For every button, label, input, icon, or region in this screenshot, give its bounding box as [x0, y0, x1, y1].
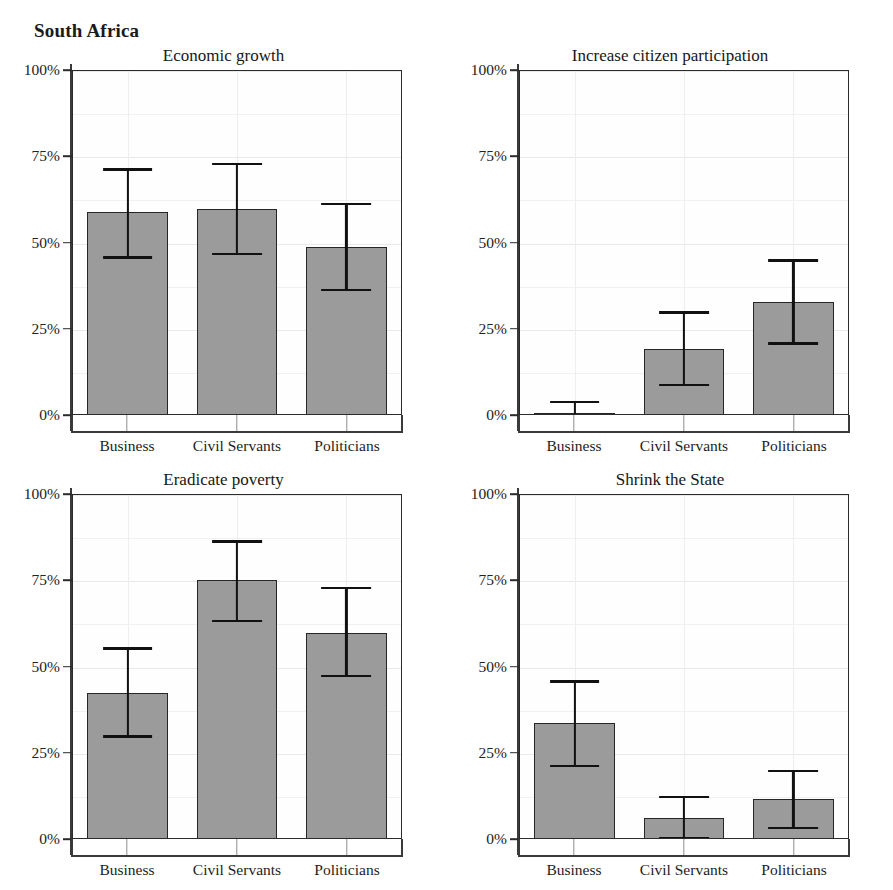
y-tick-label: 100% [24, 485, 60, 503]
error-cap-upper [321, 203, 371, 206]
panel-title: Eradicate poverty [0, 470, 447, 490]
page-title: South Africa [34, 20, 139, 42]
x-tick-label: Civil Servants [640, 437, 728, 455]
x-tick-label: Politicians [314, 437, 379, 455]
error-bar [127, 649, 129, 737]
y-tick-mark [510, 69, 519, 71]
y-tick-label: 100% [471, 61, 507, 79]
y-tick-mark [63, 579, 72, 581]
y-axis-line [517, 64, 519, 431]
error-cap-lower [550, 765, 600, 768]
error-cap-lower [659, 384, 709, 387]
plot-wrap: 0%25%50%75%100%BusinessCivil ServantsPol… [519, 70, 849, 415]
y-tick-mark [63, 752, 72, 754]
x-tick-mark [793, 839, 794, 855]
plot-area [72, 494, 402, 839]
y-tick-label: 0% [486, 406, 507, 424]
y-tick-mark [510, 579, 519, 581]
y-tick-label: 100% [471, 485, 507, 503]
plot-wrap: 0%25%50%75%100%BusinessCivil ServantsPol… [72, 70, 402, 415]
plot-area [72, 70, 402, 415]
y-tick-mark [63, 242, 72, 244]
y-axis-line [517, 488, 519, 855]
x-axis-line [71, 855, 403, 857]
y-tick-label: 0% [39, 830, 60, 848]
x-tick-mark [683, 415, 684, 431]
x-tick-label: Civil Servants [193, 437, 281, 455]
error-cap-lower [321, 675, 371, 678]
x-tick-mark [236, 415, 237, 431]
x-axis-stub-left [518, 839, 520, 855]
y-axis-line [70, 64, 72, 431]
error-cap-upper [768, 259, 818, 262]
x-axis-stub-right [401, 415, 403, 431]
y-tick-label: 75% [32, 147, 60, 165]
error-bar [683, 797, 685, 838]
y-tick-label: 50% [32, 658, 60, 676]
error-cap-lower [212, 620, 262, 623]
chart-panel: Eradicate poverty0%25%50%75%100%Business… [0, 466, 447, 890]
plot-area [519, 70, 849, 415]
error-bar [792, 261, 794, 344]
error-cap-lower [103, 256, 153, 259]
panel-title: Economic growth [0, 46, 447, 66]
x-tick-label: Civil Servants [193, 861, 281, 879]
x-axis-stub-right [848, 839, 850, 855]
x-axis-stub-left [71, 415, 73, 431]
y-tick-label: 25% [32, 320, 60, 338]
y-tick-label: 75% [479, 571, 507, 589]
y-tick-label: 25% [479, 320, 507, 338]
x-tick-mark [346, 839, 347, 855]
panel-title: Shrink the State [447, 470, 893, 490]
x-axis-line [71, 431, 403, 433]
chart-panel: Shrink the State0%25%50%75%100%BusinessC… [447, 466, 893, 890]
error-cap-lower [212, 253, 262, 256]
x-tick-label: Civil Servants [640, 861, 728, 879]
y-tick-label: 25% [479, 744, 507, 762]
y-tick-label: 75% [32, 571, 60, 589]
error-cap-upper [768, 770, 818, 773]
error-bar [574, 681, 576, 766]
error-cap-lower [768, 827, 818, 830]
x-tick-label: Business [99, 861, 154, 879]
error-cap-lower [768, 342, 818, 345]
error-cap-upper [103, 647, 153, 650]
chart-panel: Economic growth0%25%50%75%100%BusinessCi… [0, 42, 447, 466]
plot-wrap: 0%25%50%75%100%BusinessCivil ServantsPol… [519, 494, 849, 839]
panel-grid: Economic growth0%25%50%75%100%BusinessCi… [0, 42, 893, 890]
error-cap-upper [212, 163, 262, 166]
error-cap-upper [550, 401, 600, 404]
x-tick-label: Business [99, 437, 154, 455]
y-tick-mark [63, 666, 72, 668]
x-axis-stub-right [848, 415, 850, 431]
x-axis-stub-left [71, 839, 73, 855]
x-tick-mark [236, 839, 237, 855]
error-cap-upper [103, 168, 153, 171]
y-tick-mark [510, 752, 519, 754]
x-tick-mark [126, 839, 127, 855]
x-tick-mark [573, 415, 574, 431]
y-tick-label: 100% [24, 61, 60, 79]
x-axis-stub-left [518, 415, 520, 431]
y-tick-mark [510, 666, 519, 668]
y-tick-label: 50% [479, 658, 507, 676]
vertical-gridline [684, 495, 685, 838]
x-tick-label: Politicians [314, 861, 379, 879]
x-tick-label: Politicians [761, 861, 826, 879]
x-tick-mark [683, 839, 684, 855]
y-tick-label: 50% [479, 234, 507, 252]
error-bar [792, 771, 794, 828]
error-bar [127, 169, 129, 257]
y-axis-line [70, 488, 72, 855]
x-tick-mark [346, 415, 347, 431]
y-tick-label: 0% [486, 830, 507, 848]
panel-title: Increase citizen participation [447, 46, 893, 66]
x-axis-stub-right [401, 839, 403, 855]
error-bar [345, 204, 347, 290]
error-cap-upper [659, 796, 709, 799]
plot-wrap: 0%25%50%75%100%BusinessCivil ServantsPol… [72, 494, 402, 839]
x-tick-mark [793, 415, 794, 431]
x-axis-line [518, 855, 850, 857]
error-cap-upper [659, 311, 709, 314]
x-axis-line [518, 431, 850, 433]
